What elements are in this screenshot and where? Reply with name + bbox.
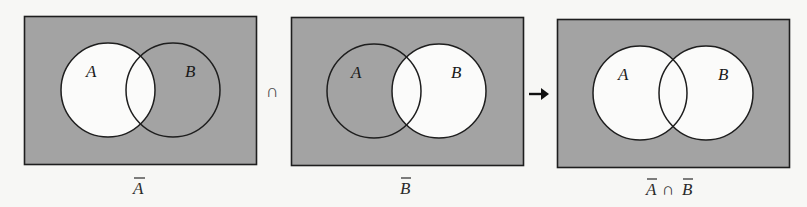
circle-a-label: A (617, 65, 629, 84)
intersection-operator: ∩ (266, 81, 279, 101)
caption-intersection: ∩ (662, 180, 674, 199)
panel-complement-a-intersect-complement-b: A B A ∩ B (558, 20, 790, 200)
caption-b: B (682, 180, 693, 199)
caption-complement-a-intersect-complement-b: A ∩ B (645, 179, 693, 199)
circle-b-label: B (185, 62, 196, 81)
result-arrow-icon (529, 88, 549, 100)
caption-b: B (400, 179, 411, 198)
circle-b-label: B (451, 63, 462, 82)
circle-b-label: B (718, 65, 729, 84)
venn-diagram-sequence: A B A ∩ A B B A B (0, 0, 807, 207)
caption-a: A (132, 179, 144, 198)
caption-a: A (645, 180, 657, 199)
circle-a-label: A (85, 62, 97, 81)
panel-complement-a: A B A (25, 17, 257, 199)
caption-complement-a: A (132, 178, 145, 198)
panel-complement-b: A B B (292, 18, 524, 199)
caption-complement-b: B (400, 178, 411, 198)
circle-a-label: A (350, 63, 362, 82)
